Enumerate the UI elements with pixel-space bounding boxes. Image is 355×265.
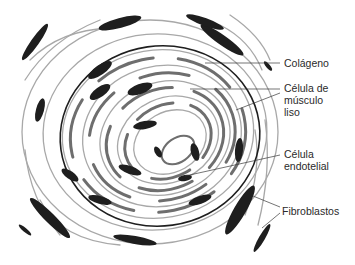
- label-fibroblastos: Fibroblastos: [282, 205, 339, 217]
- label-colageno: Colágeno: [284, 57, 329, 69]
- label-celula-endotelial: Célula endotelial: [284, 148, 329, 172]
- vessel-cross-section-illustration: [0, 0, 355, 265]
- label-celula-musculo-liso: Célula de músculo liso: [284, 82, 328, 118]
